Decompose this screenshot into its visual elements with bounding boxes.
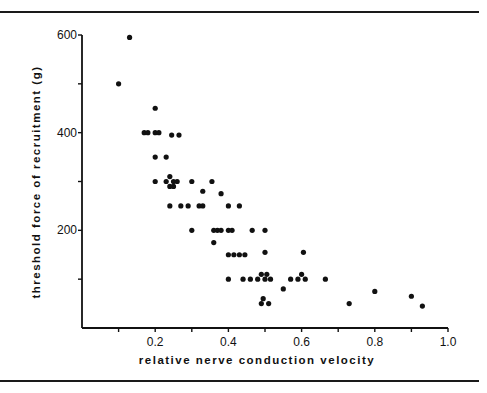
data-point bbox=[288, 277, 293, 282]
data-point bbox=[200, 189, 205, 194]
data-point bbox=[259, 272, 264, 277]
data-point bbox=[229, 228, 234, 233]
data-point bbox=[153, 179, 158, 184]
data-point bbox=[261, 296, 266, 301]
data-point bbox=[145, 130, 150, 135]
data-point bbox=[266, 301, 271, 306]
data-points bbox=[116, 35, 425, 309]
data-point bbox=[218, 191, 223, 196]
tick-labels: 0.20.40.60.81.0200400600 bbox=[57, 28, 457, 349]
y-tick-label: 400 bbox=[57, 126, 77, 140]
data-point bbox=[240, 277, 245, 282]
data-point bbox=[295, 277, 300, 282]
data-point bbox=[255, 277, 260, 282]
data-point bbox=[164, 179, 169, 184]
data-point bbox=[237, 203, 242, 208]
x-tick-label: 0.6 bbox=[293, 335, 310, 349]
x-tick-label: 1.0 bbox=[440, 335, 457, 349]
data-point bbox=[250, 228, 255, 233]
scatter-plot: 0.20.40.60.81.0200400600 relative nerve … bbox=[0, 0, 487, 393]
data-point bbox=[347, 301, 352, 306]
data-point bbox=[323, 277, 328, 282]
data-point bbox=[262, 228, 267, 233]
data-point bbox=[153, 106, 158, 111]
data-point bbox=[248, 277, 253, 282]
data-point bbox=[127, 35, 132, 40]
data-point bbox=[211, 240, 216, 245]
data-point bbox=[171, 184, 176, 189]
data-point bbox=[231, 252, 236, 257]
data-point bbox=[189, 228, 194, 233]
data-point bbox=[169, 133, 174, 138]
x-tick-label: 0.4 bbox=[220, 335, 237, 349]
data-point bbox=[372, 289, 377, 294]
data-point bbox=[262, 277, 267, 282]
data-point bbox=[167, 203, 172, 208]
x-tick-label: 0.2 bbox=[147, 335, 164, 349]
data-point bbox=[226, 277, 231, 282]
data-point bbox=[420, 303, 425, 308]
data-point bbox=[186, 203, 191, 208]
data-point bbox=[156, 130, 161, 135]
y-tick-label: 600 bbox=[57, 28, 77, 42]
data-point bbox=[176, 133, 181, 138]
data-point bbox=[218, 228, 223, 233]
data-point bbox=[237, 252, 242, 257]
x-axis-title: relative nerve conduction velocity bbox=[139, 354, 375, 366]
data-point bbox=[264, 272, 269, 277]
data-point bbox=[262, 250, 267, 255]
data-point bbox=[116, 81, 121, 86]
data-point bbox=[299, 272, 304, 277]
data-point bbox=[153, 154, 158, 159]
data-point bbox=[209, 179, 214, 184]
data-point bbox=[226, 203, 231, 208]
axes bbox=[82, 35, 448, 328]
data-point bbox=[409, 294, 414, 299]
data-point bbox=[281, 286, 286, 291]
data-point bbox=[268, 277, 273, 282]
y-tick-label: 200 bbox=[57, 223, 77, 237]
data-point bbox=[189, 179, 194, 184]
data-point bbox=[226, 252, 231, 257]
data-point bbox=[301, 250, 306, 255]
ticks bbox=[78, 35, 448, 332]
x-tick-label: 0.8 bbox=[366, 335, 383, 349]
data-point bbox=[167, 174, 172, 179]
data-point bbox=[259, 301, 264, 306]
y-axis-title: threshold force of recruitment (g) bbox=[30, 65, 42, 298]
data-point bbox=[303, 277, 308, 282]
data-point bbox=[242, 252, 247, 257]
data-point bbox=[200, 203, 205, 208]
data-point bbox=[178, 203, 183, 208]
data-point bbox=[164, 154, 169, 159]
data-point bbox=[175, 179, 180, 184]
